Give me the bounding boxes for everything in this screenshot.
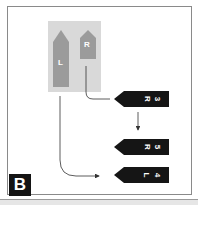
tag-r5-side: R [143, 144, 151, 150]
tag-r3-side: R [143, 96, 151, 102]
connector-l-to-l4 [60, 96, 99, 176]
right-source-arrow-label: R [84, 40, 90, 49]
panel-label-badge: B [9, 174, 31, 196]
tag-r5-number: 5 [153, 145, 161, 149]
tag-r3-number: 3 [153, 97, 161, 101]
left-source-arrow-label: L [58, 58, 63, 67]
bottom-edge [0, 199, 198, 205]
tag-l4-number: 4 [153, 173, 161, 177]
tag-l4-side: L [142, 173, 150, 178]
